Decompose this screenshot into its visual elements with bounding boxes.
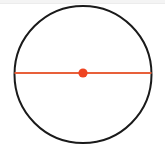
circle-diagram-canvas (0, 0, 165, 146)
center-point (78, 68, 87, 77)
geometry-figure-svg (0, 0, 165, 146)
